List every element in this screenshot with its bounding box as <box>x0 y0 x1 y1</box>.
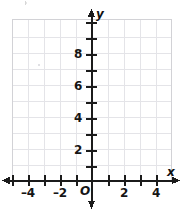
y-axis-arrow-up <box>88 9 95 17</box>
origin-label: O <box>80 185 90 197</box>
y-tick-label-8: 8 <box>72 48 84 60</box>
x-tick-label-neg2: –2 <box>51 187 69 199</box>
y-tick-label-6: 6 <box>72 80 84 92</box>
y-axis <box>86 9 97 209</box>
x-tick-label-2: 2 <box>118 187 130 199</box>
x-axis-label: x <box>167 166 175 178</box>
x-tick-label-4: 4 <box>150 187 162 199</box>
y-tick-label-4: 4 <box>72 112 84 124</box>
x-tick-label-neg4: –4 <box>19 187 37 199</box>
coordinate-plane-svg <box>0 0 183 211</box>
coordinate-plane-figure: –4 –2 2 4 8 6 4 2 y x O <box>0 0 183 211</box>
y-tick-label-2: 2 <box>72 144 84 156</box>
y-axis-label: y <box>96 8 104 20</box>
scan-artifact-group <box>25 1 40 66</box>
y-axis-arrow-down <box>88 201 95 209</box>
x-axis-arrow-left <box>2 177 10 184</box>
